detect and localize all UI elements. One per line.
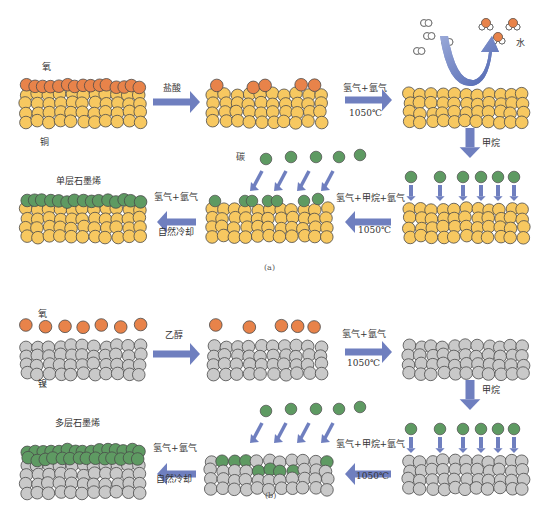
diffusion-arrow <box>250 423 262 443</box>
oxide-layer-1 <box>20 318 147 333</box>
adsorb-arrow <box>406 185 415 201</box>
graphene-monolayer <box>21 193 147 208</box>
water-molecules <box>479 19 520 45</box>
substrate-slab-1 <box>19 87 147 129</box>
diffusion-arrow <box>321 171 333 191</box>
diffusion-arrow <box>297 423 309 443</box>
step3-label-a: 甲烷 <box>482 139 500 148</box>
diffusion-arrow <box>250 171 262 191</box>
step2-label-bottom-a: 1050℃ <box>349 109 382 118</box>
substrate-label-copper: 铜 <box>40 138 49 147</box>
step4-label-top-a: 氢气+甲烷+氩气 <box>336 194 405 203</box>
substrate-slab-2 <box>207 339 328 381</box>
step3-label-b: 甲烷 <box>482 386 500 395</box>
substrate-slab-2 <box>206 87 328 129</box>
adsorb-arrow <box>458 437 467 453</box>
diffusion-arrow <box>274 423 286 443</box>
product-label-b: 多层石墨烯 <box>55 419 100 428</box>
step1-arrow <box>153 91 200 113</box>
step2-label-top-b: 氢气+氩气 <box>342 330 386 339</box>
adsorb-arrow <box>509 185 518 201</box>
step1-label-b: 乙醇 <box>165 331 183 340</box>
step4-label-bottom-a: 1050℃ <box>358 226 391 235</box>
product-label-a: 单层石墨烯 <box>56 177 101 186</box>
adsorb-arrow <box>476 185 485 201</box>
step4-label-bottom-b: 1050℃ <box>356 472 389 481</box>
adsorb-arrow <box>509 437 518 453</box>
water-label: 水 <box>516 39 525 48</box>
step5-label-bottom-b: 自然冷却 <box>156 475 192 484</box>
substrate-slab-4 <box>402 454 530 496</box>
step1-label-a: 盐酸 <box>163 84 181 93</box>
step5-label-top-a: 氢气+氩气 <box>154 193 198 202</box>
step5-label-bottom-a: 自然冷却 <box>158 228 194 237</box>
carbon-atoms <box>250 401 366 443</box>
diffusion-arrow <box>274 171 286 191</box>
reaction-u-arrow <box>440 36 499 86</box>
substrate-slab-5 <box>206 202 334 244</box>
step5-label-top-b: 氢气+氩气 <box>153 444 197 453</box>
substrate-slab-5 <box>204 454 334 496</box>
step2-label-bottom-b: 1050℃ <box>347 359 380 368</box>
substrate-slab-3 <box>402 339 530 381</box>
carbon-adsorption <box>405 423 520 453</box>
substrate-slab-6 <box>19 202 146 244</box>
substrate-slab-3 <box>403 87 530 129</box>
adsorb-arrow <box>435 185 444 201</box>
substrate-slab-4 <box>402 202 530 244</box>
adsorb-arrow <box>458 185 467 201</box>
step1-arrow <box>153 343 200 365</box>
diffusion-arrow <box>297 171 309 191</box>
step3-arrow <box>460 380 481 410</box>
carbon-label: 碳 <box>236 153 245 162</box>
adsorb-arrow <box>406 437 415 453</box>
step2-label-top-a: 氢气+氩气 <box>343 84 387 93</box>
oxide-layer-1 <box>20 78 145 93</box>
caption-b: (b) <box>265 491 276 500</box>
adsorb-arrow <box>493 185 502 201</box>
oxide-label-a: 氧 <box>42 63 51 72</box>
caption-a: (a) <box>264 263 275 272</box>
step4-label-top-b: 氢气+甲烷+氩气 <box>336 440 405 449</box>
adsorb-arrow <box>476 437 485 453</box>
oxide-label-b: 氧 <box>38 310 47 319</box>
substrate-slab-1 <box>20 339 147 381</box>
adsorb-arrow <box>435 437 444 453</box>
carbon-adsorption <box>405 171 520 201</box>
step3-arrow <box>460 128 481 158</box>
oxide-layer-2 <box>209 319 320 334</box>
diffusion-arrow <box>321 423 333 443</box>
substrate-label-nickel: 镍 <box>38 380 47 389</box>
adsorb-arrow <box>493 437 502 453</box>
